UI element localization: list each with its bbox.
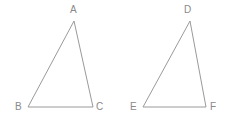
vertex-label-a: A bbox=[70, 5, 77, 15]
diagram-canvas: A B C D E F bbox=[0, 0, 227, 124]
triangle-def-shape bbox=[143, 21, 206, 107]
vertex-label-d: D bbox=[184, 5, 191, 15]
vertex-label-f: F bbox=[210, 102, 216, 112]
triangle-abc-shape bbox=[28, 21, 93, 107]
geometry-figure bbox=[0, 0, 227, 124]
vertex-label-b: B bbox=[15, 102, 22, 112]
vertex-label-e: E bbox=[130, 102, 137, 112]
vertex-label-c: C bbox=[96, 102, 103, 112]
